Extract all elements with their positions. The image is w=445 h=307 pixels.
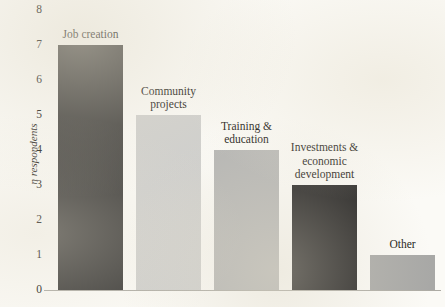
bar-label: Investments & economic development [291, 141, 358, 182]
bar[interactable]: Community projects [136, 115, 201, 290]
bar-label: Other [389, 238, 415, 252]
bar[interactable]: Investments & economic development [292, 185, 357, 290]
bar-chart: 012345678 n respondents Job creationComm… [0, 0, 445, 307]
bar[interactable]: Other [370, 255, 435, 290]
bar[interactable]: Training & education [214, 150, 279, 290]
bar-label: Community projects [141, 85, 196, 112]
plot-area: Job creationCommunity projectsTraining &… [0, 0, 445, 290]
bar-label: Job creation [63, 28, 119, 42]
bar-label: Training & education [221, 120, 272, 147]
x-axis-baseline [44, 290, 441, 291]
bar[interactable]: Job creation [58, 45, 123, 290]
